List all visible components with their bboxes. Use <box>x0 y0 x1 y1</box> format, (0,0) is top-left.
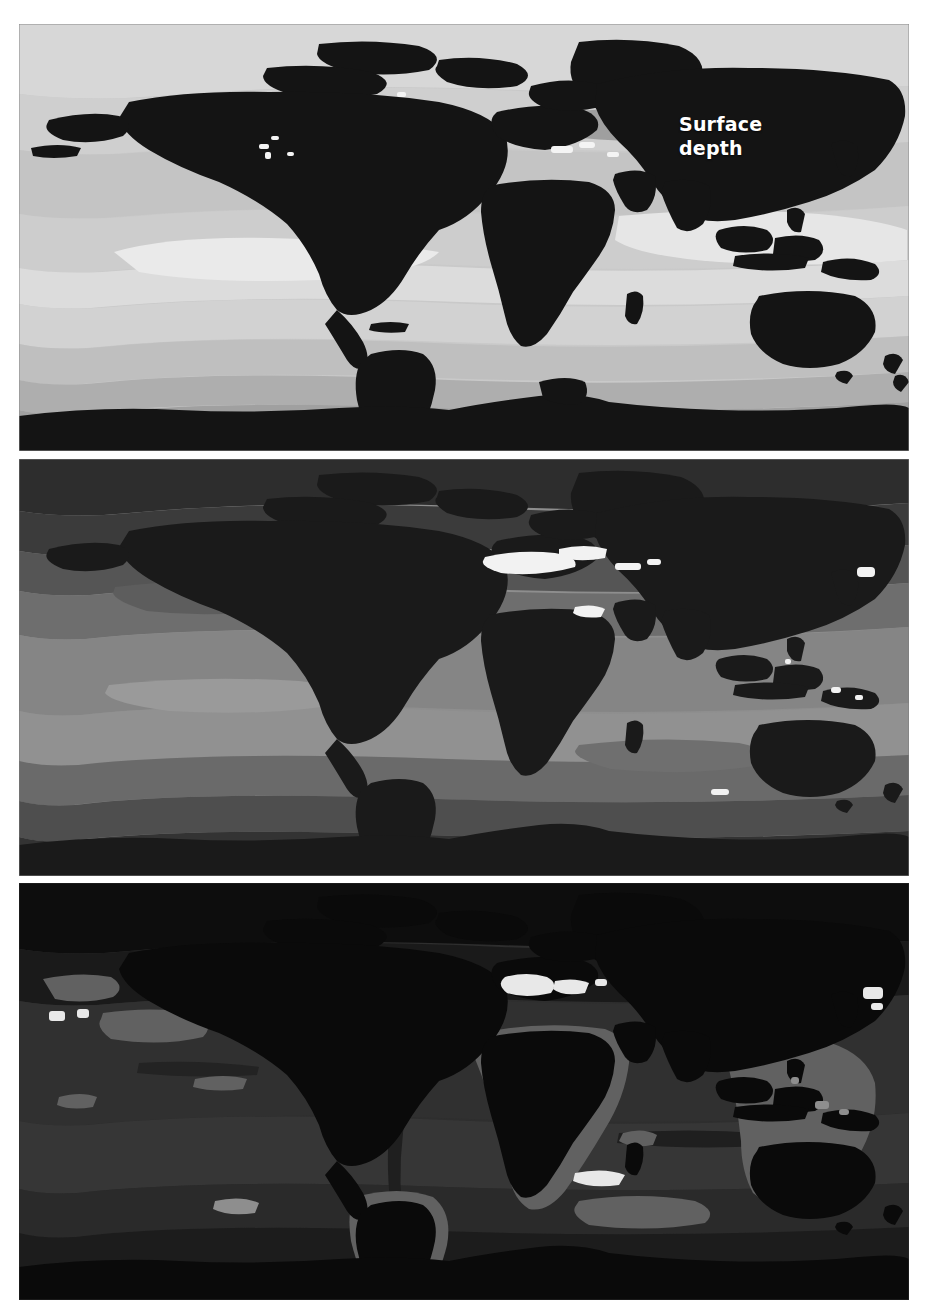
map-panel-middle: Middle water column depth <box>19 459 909 876</box>
map-panel-lower: Lower water column depth <box>19 883 909 1300</box>
figure-root: Surface depth <box>0 0 929 1315</box>
world-map-lower <box>19 883 909 1300</box>
world-map-middle <box>19 459 909 876</box>
world-map-surface <box>19 24 909 451</box>
map-panel-surface: Surface depth <box>19 24 909 451</box>
